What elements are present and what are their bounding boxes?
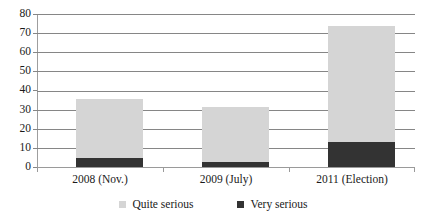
x-separator-start bbox=[37, 167, 38, 172]
x-separator-2 bbox=[289, 167, 290, 172]
stacked-bar-chart: 80 70 60 50 40 30 20 10 0 bbox=[0, 0, 427, 218]
legend-label-quite-serious: Quite serious bbox=[132, 198, 193, 210]
legend-swatch-quite-serious-icon bbox=[119, 201, 126, 208]
x-tick-label-2008: 2008 (Nov.) bbox=[37, 173, 163, 186]
x-separator-end bbox=[414, 167, 415, 172]
legend-item-quite-serious[interactable]: Quite serious bbox=[119, 198, 193, 210]
legend-item-very-serious[interactable]: Very serious bbox=[237, 198, 307, 210]
x-axis-tick-labels: 2008 (Nov.) 2009 (July) 2011 (Election) bbox=[37, 173, 415, 189]
x-separator-1 bbox=[163, 167, 164, 172]
legend-swatch-very-serious-icon bbox=[237, 201, 244, 208]
x-tick-label-2009: 2009 (July) bbox=[163, 173, 289, 186]
legend-label-very-serious: Very serious bbox=[250, 198, 307, 210]
x-tick-label-2011: 2011 (Election) bbox=[289, 173, 415, 186]
chart-legend: Quite serious Very serious bbox=[0, 195, 427, 213]
